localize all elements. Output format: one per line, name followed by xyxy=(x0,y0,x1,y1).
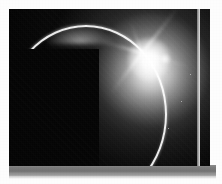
photo-caption xyxy=(0,0,1,1)
lens-flare-dot xyxy=(158,54,171,64)
photo-drop-shadow-fade xyxy=(9,174,216,179)
crescent-shadow-mask xyxy=(9,49,99,166)
photo-right-edge-highlight xyxy=(197,9,200,166)
crescent-highlight xyxy=(45,24,115,44)
planet-limb-crescent-group xyxy=(9,9,210,166)
page-canvas xyxy=(0,0,222,184)
eclipse-photograph[interactable] xyxy=(9,9,210,166)
